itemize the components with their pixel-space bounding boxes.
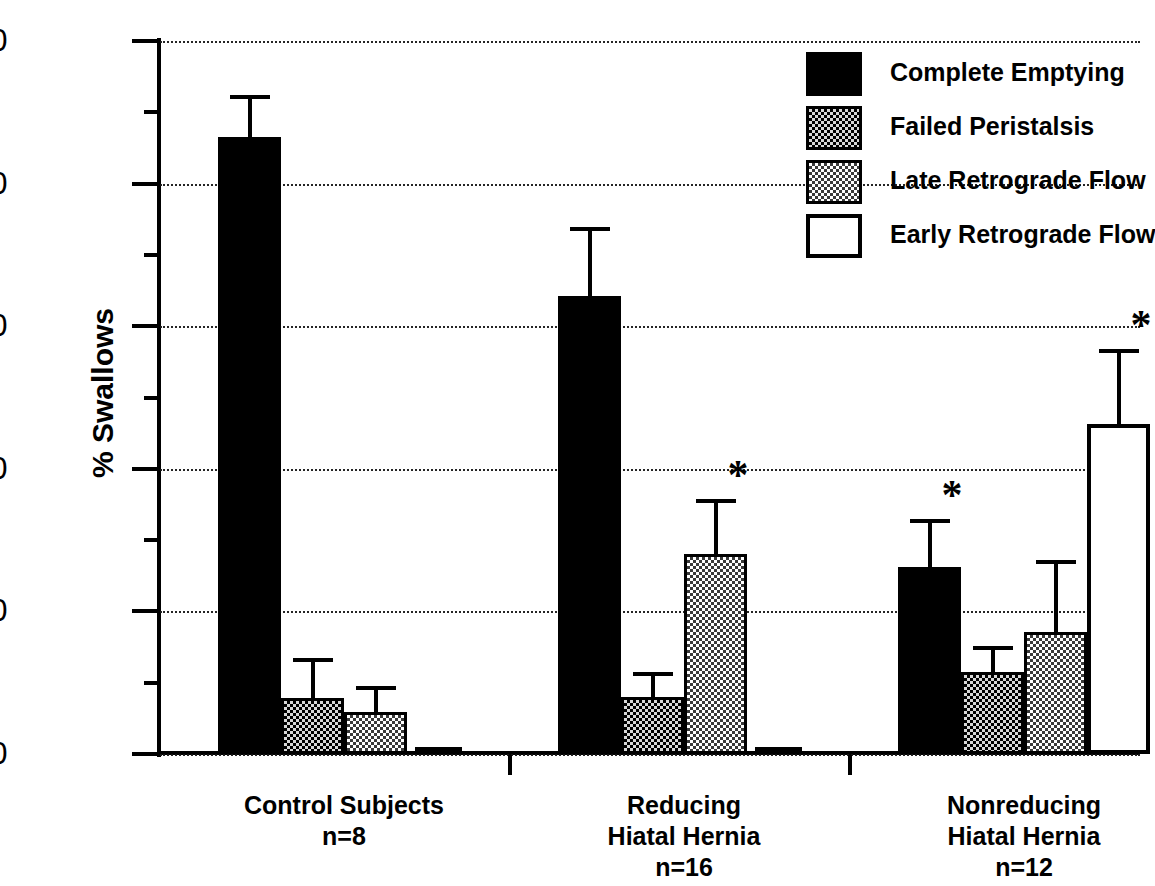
error-bar-stem <box>374 688 378 712</box>
error-bar-cap <box>230 95 270 99</box>
bar <box>415 747 462 754</box>
error-bar-cap <box>696 499 736 503</box>
y-axis-minor-tick <box>144 253 158 257</box>
bar <box>558 296 621 754</box>
plot-area: *** <box>160 41 1140 754</box>
error-bar-cap <box>910 519 950 523</box>
group-label-line: Reducing <box>608 790 761 821</box>
error-bar-cap <box>1099 349 1139 353</box>
gridline <box>160 754 1140 756</box>
gridline <box>160 326 1140 328</box>
group-label: Control Subjectsn=8 <box>244 790 444 852</box>
bar <box>344 712 407 754</box>
group-label-line: Control Subjects <box>244 790 444 821</box>
y-axis-major-tick <box>132 467 158 471</box>
bar <box>961 672 1024 754</box>
error-bar-cap <box>973 646 1013 650</box>
y-axis-major-tick <box>132 39 158 43</box>
y-axis-major-tick <box>132 182 158 186</box>
error-bar-stem <box>928 521 932 567</box>
bar <box>621 697 684 754</box>
bar <box>281 698 344 754</box>
y-axis-tick-label: 80 <box>0 166 8 202</box>
legend-label: Failed Peristalsis <box>890 112 1094 141</box>
bar <box>898 567 961 754</box>
bar <box>1024 632 1087 754</box>
y-axis-major-tick <box>132 324 158 328</box>
y-axis-tick-label: 60 <box>0 308 8 344</box>
error-bar-stem <box>248 97 252 137</box>
legend-swatch-open-icon <box>806 214 862 258</box>
error-bar-cap <box>1036 560 1076 564</box>
legend-label: Late Retrograde Flow <box>890 166 1146 195</box>
significance-marker: * <box>1131 307 1152 343</box>
y-axis-tick-label: 100 <box>0 23 8 59</box>
group-label-line: Hiatal Hernia <box>947 821 1101 852</box>
x-axis-tick <box>508 755 512 775</box>
group-label: NonreducingHiatal Hernian=12 <box>947 790 1101 883</box>
y-axis-tick-label: 20 <box>0 593 8 629</box>
gridline <box>160 469 1140 471</box>
bar <box>218 137 281 754</box>
bar <box>1087 424 1150 754</box>
legend-label: Early Retrograde Flow <box>890 220 1155 249</box>
y-axis-minor-tick <box>144 538 158 542</box>
error-bar-cap <box>633 672 673 676</box>
x-axis-tick <box>848 755 852 775</box>
y-axis-minor-tick <box>144 110 158 114</box>
y-axis-major-tick <box>132 609 158 613</box>
y-axis-minor-tick <box>144 396 158 400</box>
gridline <box>160 611 1140 613</box>
significance-marker: * <box>942 477 963 513</box>
y-axis-major-tick <box>132 752 158 756</box>
legend-swatch-solid-icon <box>806 52 862 96</box>
significance-marker: * <box>728 457 749 493</box>
group-label-line: n=12 <box>947 852 1101 883</box>
error-bar-cap <box>356 686 396 690</box>
error-bar-stem <box>991 648 995 672</box>
bar <box>684 554 747 754</box>
legend-label: Complete Emptying <box>890 58 1125 87</box>
error-bar-stem <box>1054 562 1058 632</box>
group-label: ReducingHiatal Hernian=16 <box>608 790 761 883</box>
group-label-line: n=8 <box>244 821 444 852</box>
gridline <box>160 41 1140 43</box>
error-bar-cap <box>293 658 333 662</box>
error-bar-stem <box>588 229 592 295</box>
y-axis-tick-label: 0 <box>0 736 8 772</box>
error-bar-stem <box>714 501 718 554</box>
group-label-line: n=16 <box>608 852 761 883</box>
y-axis-minor-tick <box>144 681 158 685</box>
error-bar-stem <box>651 674 655 697</box>
group-label-line: Nonreducing <box>947 790 1101 821</box>
group-label-line: Hiatal Hernia <box>608 821 761 852</box>
error-bar-cap <box>570 227 610 231</box>
legend-swatch-light-dither-icon <box>806 160 862 204</box>
y-axis-title: % Swallows <box>86 308 120 478</box>
legend-swatch-dark-dither-icon <box>806 106 862 150</box>
y-axis-tick-label: 40 <box>0 451 8 487</box>
error-bar-stem <box>311 660 315 699</box>
bar <box>755 747 802 754</box>
error-bar-stem <box>1117 351 1121 424</box>
